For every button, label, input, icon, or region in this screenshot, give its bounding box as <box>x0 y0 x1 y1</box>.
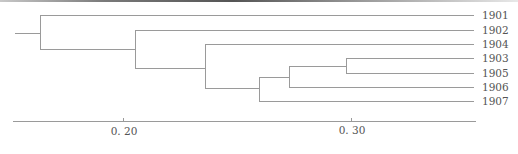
x-axis: 0. 20 0. 30 <box>13 118 476 137</box>
x-axis-tick-label-0-20: 0. 20 <box>111 125 138 137</box>
leaf-label-1904: 1904 <box>482 38 509 50</box>
leaf-label-1903: 1903 <box>482 52 509 64</box>
dendrogram-chart: 1901 1902 1904 1903 1905 1906 1907 0. 20… <box>0 0 518 154</box>
leaf-labels: 1901 1902 1904 1903 1905 1906 1907 <box>482 9 509 107</box>
leaf-label-1906: 1906 <box>482 81 509 93</box>
leaf-label-1907: 1907 <box>482 95 509 107</box>
x-axis-tick-label-0-30: 0. 30 <box>339 124 366 136</box>
leaf-label-1901: 1901 <box>482 9 509 21</box>
dendrogram-branches <box>15 16 474 102</box>
leaf-label-1905: 1905 <box>482 67 509 79</box>
leaf-label-1902: 1902 <box>482 24 509 36</box>
